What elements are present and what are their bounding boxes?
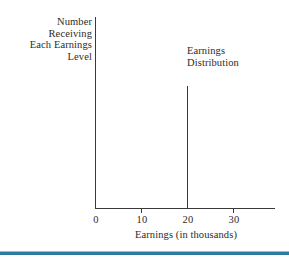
earnings-distribution-figure: Number Receiving Each Earnings Level 0 1…	[0, 0, 289, 263]
earnings-distribution-spike	[187, 86, 188, 208]
x-tick-30	[233, 209, 234, 213]
x-tick-10	[141, 209, 142, 213]
x-axis-label: Earnings (in thousands)	[95, 229, 277, 241]
y-axis-label-line-3: Each Earnings	[6, 39, 92, 51]
y-axis-label-line-4: Level	[6, 51, 92, 63]
series-annotation-line-1: Earnings	[187, 45, 282, 57]
y-axis-label-line-1: Number	[6, 16, 92, 28]
y-axis-line	[95, 17, 96, 209]
footer-rule	[0, 252, 289, 255]
x-tick-label-0: 0	[76, 214, 116, 226]
y-axis-label-line-2: Receiving	[6, 28, 92, 40]
x-axis-line	[95, 208, 275, 209]
x-tick-label-20: 20	[168, 214, 208, 226]
series-annotation-line-2: Distribution	[187, 57, 282, 69]
series-annotation-earnings-distribution: Earnings Distribution	[187, 45, 282, 69]
x-tick-label-30: 30	[214, 214, 254, 226]
y-axis-label: Number Receiving Each Earnings Level	[6, 16, 92, 62]
x-tick-label-10: 10	[122, 214, 162, 226]
